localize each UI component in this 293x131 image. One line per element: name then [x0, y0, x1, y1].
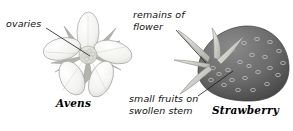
- strawberry-body: [198, 26, 289, 101]
- label-small-fruits-on-swollen-stem: small fruits onswollen stem: [129, 93, 198, 116]
- leader-line-remains: [176, 30, 206, 63]
- label-ovaries: ovaries: [6, 18, 41, 30]
- label-remains-of-flower: remains offlower: [133, 9, 185, 32]
- strawberry-fruit-illustration: [174, 26, 289, 101]
- label-small-line2: swollen stem: [129, 105, 193, 116]
- botany-comparison-figure: ovaries remains offlower small fruits on…: [0, 0, 293, 131]
- label-small-line1: small fruits on: [129, 93, 198, 104]
- caption-avens: Avens: [56, 97, 91, 109]
- caption-strawberry: Strawberry: [212, 104, 279, 116]
- avens-flower-illustration: [41, 12, 135, 101]
- label-remains-line1: remains of: [133, 9, 185, 20]
- label-remains-line2: flower: [133, 21, 163, 32]
